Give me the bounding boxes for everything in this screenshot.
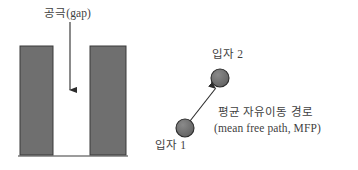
particle-2-label: 입자 2 [212,47,243,62]
right-block [90,46,126,155]
mfp-arrow [190,89,216,122]
particle-1-dot [176,119,194,137]
particle-1-label: 입자 1 [155,138,186,153]
left-block [20,46,53,155]
mfp-label-korean: 평균 자유이동 경로 [218,105,313,120]
figure-root: 공극(gap) 입자 2 입자 1 평균 자유이동 경로 (mean free … [0,0,358,170]
particle-2-dot [211,69,229,87]
gap-label: 공극(gap) [44,6,91,21]
mfp-label-english: (mean free path, MFP) [214,121,321,136]
gap-illustration-group [18,22,128,156]
